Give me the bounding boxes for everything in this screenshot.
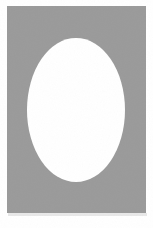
figure-canvas: Gray rectangular panel with centered whi… [0,0,153,228]
bottom-shadow [8,213,147,216]
figure-svg [0,0,153,228]
white-ellipse [27,38,125,182]
